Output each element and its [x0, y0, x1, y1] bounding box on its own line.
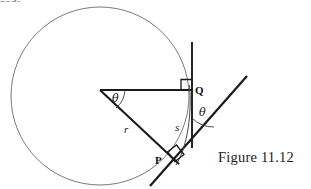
label-radius-r: r	[124, 124, 128, 135]
label-arc-s: s	[175, 122, 179, 133]
label-point-p: P	[155, 155, 162, 166]
label-theta-tangent: θ	[199, 107, 206, 118]
figure-caption: Figure 11.12	[218, 150, 294, 165]
circle-outline	[11, 7, 189, 185]
figure-container: rads. θ θ r s P Q Figure 11.12	[0, 0, 311, 189]
label-point-q: Q	[195, 85, 204, 96]
angle-arc-theta-tangent	[192, 118, 214, 127]
label-theta-center: θ	[112, 93, 119, 104]
right-angle-marker-q	[181, 80, 192, 91]
